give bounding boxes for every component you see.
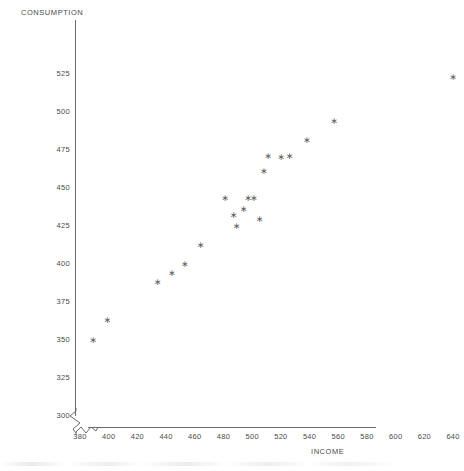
y-tick-label: 425	[44, 221, 70, 230]
x-tick-label: 620	[411, 432, 437, 441]
x-tick-label: 540	[297, 432, 323, 441]
scan-artifact	[0, 462, 395, 466]
y-tick-label: 475	[44, 145, 70, 154]
x-tick-label: 400	[96, 432, 122, 441]
data-point	[89, 337, 96, 344]
y-tick-label: 450	[44, 183, 70, 192]
y-axis-title: CONSUMPTION	[21, 8, 83, 17]
data-point	[250, 195, 257, 202]
x-tick-label: 460	[182, 432, 208, 441]
data-point	[197, 242, 204, 249]
x-tick-label: 480	[211, 432, 237, 441]
data-point	[230, 212, 237, 219]
data-point	[240, 206, 247, 213]
x-tick-label: 560	[325, 432, 351, 441]
data-point	[256, 216, 263, 223]
x-tick-label: 580	[354, 432, 380, 441]
data-point	[260, 168, 267, 175]
data-point	[181, 261, 188, 268]
data-point	[104, 317, 111, 324]
x-tick-label: 640	[440, 432, 464, 441]
y-tick-label: 375	[44, 297, 70, 306]
data-point	[154, 279, 161, 286]
y-tick-label: 350	[44, 335, 70, 344]
x-axis-line	[88, 427, 376, 428]
y-tick-label: 300	[44, 411, 70, 420]
x-tick-label: 380	[67, 432, 93, 441]
x-tick-label: 500	[239, 432, 265, 441]
data-point	[221, 195, 228, 202]
y-tick-label: 525	[44, 69, 70, 78]
data-point	[330, 118, 337, 125]
data-point	[264, 153, 271, 160]
data-point	[277, 154, 284, 161]
data-point	[303, 137, 310, 144]
y-tick-label: 500	[44, 107, 70, 116]
x-tick-label: 440	[153, 432, 179, 441]
x-tick-label: 600	[383, 432, 409, 441]
data-point	[286, 153, 293, 160]
y-axis-line	[75, 20, 76, 416]
y-tick-label: 325	[44, 373, 70, 382]
data-point	[233, 223, 240, 230]
x-tick-label: 420	[124, 432, 150, 441]
x-axis-title: INCOME	[311, 447, 344, 456]
data-point	[168, 270, 175, 277]
data-point	[450, 74, 457, 81]
y-tick-label: 400	[44, 259, 70, 268]
x-tick-label: 520	[268, 432, 294, 441]
